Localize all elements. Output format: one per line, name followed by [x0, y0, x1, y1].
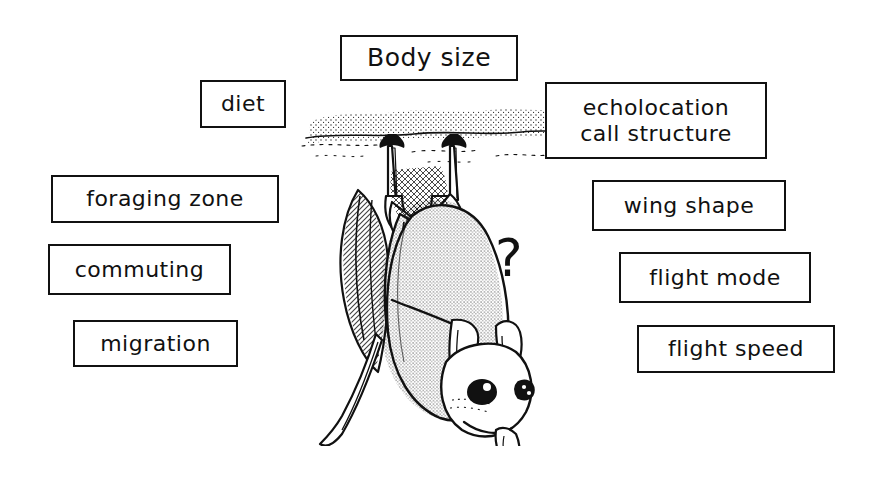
trait-label-diet: diet — [202, 91, 284, 117]
cave-ceiling — [302, 108, 558, 162]
question-mark: ? — [495, 232, 529, 294]
trait-box-commuting[interactable]: commuting — [48, 244, 231, 295]
trait-label-flight-mode: flight mode — [621, 265, 809, 291]
bat-eye — [468, 380, 496, 404]
trait-label-migration: migration — [75, 331, 236, 357]
trait-box-wing-shape[interactable]: wing shape — [592, 180, 786, 231]
trait-box-migration[interactable]: migration — [73, 320, 238, 367]
trait-box-diet[interactable]: diet — [200, 80, 286, 128]
trait-box-foraging-zone[interactable]: foraging zone — [51, 175, 279, 223]
bat-tail — [320, 334, 382, 446]
trait-label-wing-shape: wing shape — [594, 193, 784, 219]
trait-label-flight-speed: flight speed — [639, 336, 833, 362]
bat-jaw — [496, 428, 520, 446]
trait-box-flight-mode[interactable]: flight mode — [619, 252, 811, 303]
trait-box-echolocation-call-structure[interactable]: echolocation call structure — [545, 82, 767, 159]
trait-box-body-size[interactable]: Body size — [340, 35, 518, 81]
bat-head — [441, 344, 534, 446]
trait-label-foraging-zone: foraging zone — [53, 186, 277, 212]
bat-trait-figure: ? Body size diet echolocation call struc… — [0, 0, 876, 479]
trait-box-flight-speed[interactable]: flight speed — [637, 325, 835, 373]
bat-nose — [515, 380, 534, 399]
trait-label-body-size: Body size — [342, 43, 516, 73]
trait-label-echolocation-call-structure: echolocation call structure — [547, 95, 765, 147]
trait-label-commuting: commuting — [50, 257, 229, 283]
